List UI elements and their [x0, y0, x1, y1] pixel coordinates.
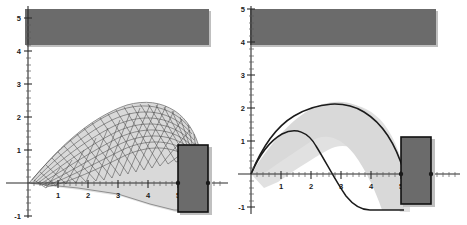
chart-panel-right: 1 2 3 4 5 6 5 4 3 2 1 -1: [234, 0, 467, 225]
y-tick-label-1-right: 1: [241, 137, 245, 146]
y-tick-label-minus1-right: -1: [238, 203, 245, 212]
x-tick-label-2-right: 2: [309, 182, 313, 191]
endpoint-dot-left-b: [206, 181, 210, 185]
region-fill-right: [251, 102, 404, 210]
left-plot-svg: 1 2 3 4 5 6 5 4 3 2 1 -1: [0, 0, 233, 225]
endpoint-dot-left-a: [176, 181, 180, 185]
figure-root: 1 2 3 4 5 6 5 4 3 2 1 -1: [0, 0, 467, 225]
x-tick-label-3: 3: [116, 191, 120, 200]
top-banner-right: [250, 9, 436, 45]
y-tick-label-5-right: 5: [241, 5, 245, 14]
y-tick-label-2: 2: [17, 113, 21, 122]
top-banner: [25, 9, 209, 45]
y-tick-label-1: 1: [17, 146, 21, 155]
y-tick-label-5: 5: [17, 14, 21, 23]
endpoint-dot-right-a: [399, 172, 403, 176]
x-tick-label-1: 1: [56, 191, 60, 200]
y-tick-label-2-right: 2: [241, 104, 245, 113]
highlight-rect-right: [401, 137, 431, 204]
x-tick-label-3-right: 3: [339, 182, 343, 191]
y-tick-label-minus1: -1: [14, 212, 21, 221]
right-plot-svg: 1 2 3 4 5 6 5 4 3 2 1 -1: [234, 0, 467, 225]
y-tick-label-4-right: 4: [241, 38, 246, 47]
x-tick-label-1-right: 1: [279, 182, 283, 191]
y-tick-label-4: 4: [17, 47, 22, 56]
x-tick-label-2: 2: [86, 191, 90, 200]
y-tick-label-3-right: 3: [241, 71, 245, 80]
endpoint-dot-right-b: [429, 172, 433, 176]
chart-panel-left: 1 2 3 4 5 6 5 4 3 2 1 -1: [0, 0, 233, 225]
y-tick-label-3: 3: [17, 80, 21, 89]
highlight-rect-left: [178, 145, 208, 212]
